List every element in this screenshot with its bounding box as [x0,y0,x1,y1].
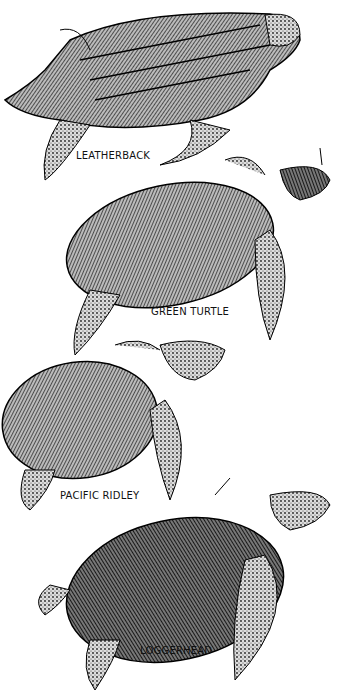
pacific-ridley-turtle [0,341,225,510]
label-pacific-ridley: PACIFIC RIDLEY [60,490,139,501]
label-green-turtle: GREEN TURTLE [151,306,229,317]
label-loggerhead: LOGGERHEAD [140,645,212,656]
green-turtle [55,148,330,355]
turtle-illustration [0,0,360,693]
turtle-plate: LEATHERBACK GREEN TURTLE PACIFIC RIDLEY … [0,0,360,693]
leatherback-turtle [5,13,300,180]
loggerhead-turtle [39,478,330,690]
label-leatherback: LEATHERBACK [76,150,150,161]
